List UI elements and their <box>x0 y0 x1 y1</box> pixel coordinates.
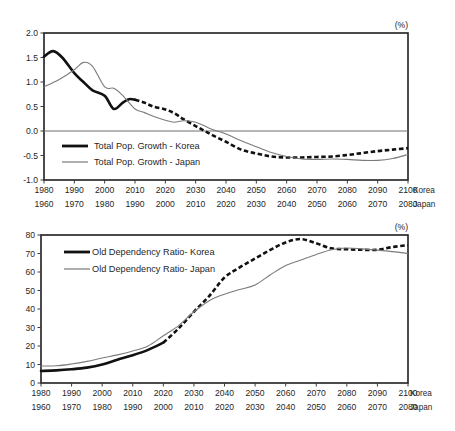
legend-label: Old Dependency Ratio- Japan <box>92 264 215 274</box>
y-tick-label: 30 <box>25 323 35 333</box>
y-tick-label: 0.0 <box>26 126 38 136</box>
y-tick-label: 50 <box>25 286 35 296</box>
x-tick-label-japan: 2060 <box>338 199 357 209</box>
unit-label: (%) <box>395 20 409 30</box>
y-tick-label: 10 <box>25 360 35 370</box>
x-tick-label-korea: 2090 <box>368 185 387 195</box>
x-axis-caption-japan: Japan <box>413 200 436 209</box>
x-tick-label-korea: 1990 <box>65 185 84 195</box>
x-axis-caption-japan: Japan <box>410 403 433 412</box>
x-tick-label-korea: 2010 <box>123 388 142 398</box>
x-tick-label-korea: 2070 <box>307 185 326 195</box>
x-tick-label-korea: 1990 <box>62 388 81 398</box>
x-tick-label-japan: 1960 <box>31 402 50 412</box>
x-tick-label-japan: 2060 <box>337 402 356 412</box>
y-tick-label: 60 <box>25 267 35 277</box>
x-tick-label-japan: 1990 <box>123 402 142 412</box>
x-tick-label-japan: 1970 <box>65 199 84 209</box>
x-tick-label-japan: 2070 <box>368 402 387 412</box>
x-tick-label-japan: 2000 <box>154 402 173 412</box>
x-tick-label-japan: 1980 <box>93 402 112 412</box>
y-tick-label: 0.5 <box>26 102 38 112</box>
chart-old-dependency-ratio: (%)0102030405060708019801990200020102020… <box>0 210 455 431</box>
x-tick-label-korea: 2060 <box>276 388 295 398</box>
legend-label: Total Pop. Growth - Korea <box>94 141 201 151</box>
x-tick-label-korea: 1980 <box>34 185 53 195</box>
chart-page: (%)-1.0-0.50.00.51.01.52.019801990200020… <box>0 0 455 431</box>
x-tick-label-korea: 2010 <box>125 185 144 195</box>
x-tick-label-korea: 2020 <box>154 388 173 398</box>
y-tick-label: 20 <box>25 341 35 351</box>
x-axis-caption-korea: Korea <box>410 389 432 398</box>
x-tick-label-japan: 2010 <box>184 402 203 412</box>
x-tick-label-korea: 2040 <box>215 388 234 398</box>
x-tick-label-japan: 1990 <box>125 199 144 209</box>
x-tick-label-japan: 2030 <box>247 199 266 209</box>
old-dependency-ratio-svg: (%)0102030405060708019801990200020102020… <box>0 210 455 431</box>
x-tick-label-japan: 2050 <box>307 199 326 209</box>
x-tick-label-japan: 2040 <box>277 199 296 209</box>
x-axis-caption-korea: Korea <box>413 186 435 195</box>
x-tick-label-korea: 2080 <box>337 388 356 398</box>
legend-label: Total Pop. Growth - Japan <box>94 157 200 167</box>
x-tick-label-korea: 2020 <box>156 185 175 195</box>
y-tick-label: -1.0 <box>23 175 38 185</box>
x-tick-label-japan: 2050 <box>307 402 326 412</box>
y-tick-label: 1.0 <box>26 77 38 87</box>
x-tick-label-korea: 2000 <box>93 388 112 398</box>
y-tick-label: 40 <box>25 304 35 314</box>
x-tick-label-japan: 1970 <box>62 402 81 412</box>
x-tick-label-japan: 2000 <box>156 199 175 209</box>
y-tick-label: 0 <box>30 378 35 388</box>
total-population-growth-svg: (%)-1.0-0.50.00.51.01.52.019801990200020… <box>0 0 455 212</box>
y-tick-label: 80 <box>25 230 35 240</box>
x-tick-label-japan: 2010 <box>186 199 205 209</box>
x-tick-label-korea: 1980 <box>31 388 50 398</box>
x-tick-label-japan: 2020 <box>216 199 235 209</box>
legend-label: Old Dependency Ratio- Korea <box>92 247 215 257</box>
x-tick-label-korea: 2030 <box>184 388 203 398</box>
y-tick-label: 2.0 <box>26 28 38 38</box>
x-tick-label-japan: 1960 <box>34 199 53 209</box>
x-tick-label-korea: 2050 <box>246 388 265 398</box>
y-tick-label: 70 <box>25 249 35 259</box>
x-tick-label-japan: 2030 <box>246 402 265 412</box>
x-tick-label-korea: 2030 <box>186 185 205 195</box>
x-tick-label-korea: 2070 <box>307 388 326 398</box>
x-tick-label-japan: 2020 <box>215 402 234 412</box>
x-tick-label-japan: 2040 <box>276 402 295 412</box>
x-tick-label-korea: 2080 <box>338 185 357 195</box>
x-tick-label-korea: 2000 <box>95 185 114 195</box>
chart-total-population-growth: (%)-1.0-0.50.00.51.01.52.019801990200020… <box>0 0 455 212</box>
x-tick-label-japan: 1980 <box>95 199 114 209</box>
y-tick-label: 1.5 <box>26 53 38 63</box>
x-tick-label-japan: 2070 <box>368 199 387 209</box>
x-tick-label-korea: 2090 <box>368 388 387 398</box>
unit-label: (%) <box>395 222 409 232</box>
x-tick-label-korea: 2050 <box>247 185 266 195</box>
y-tick-label: -0.5 <box>23 151 38 161</box>
x-tick-label-korea: 2040 <box>216 185 235 195</box>
x-tick-label-korea: 2060 <box>277 185 296 195</box>
